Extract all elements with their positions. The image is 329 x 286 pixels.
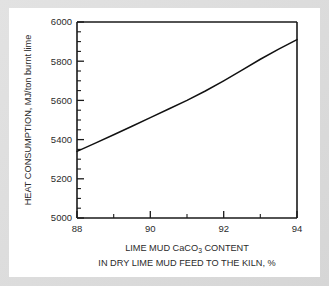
- x-axis-title-line1: LIME MUD CaCO3 CONTENT: [125, 243, 249, 254]
- plot-axes: [77, 22, 297, 218]
- x-tick-label-88: 88: [72, 223, 83, 234]
- x-tick-label-94: 94: [292, 223, 303, 234]
- y-axis-tick-labels: 5000 5200 5400 5600 5800 6000: [51, 16, 72, 223]
- figure-canvas: 5000 5200 5400 5600 5800 6000 88 90 92 9…: [9, 8, 320, 277]
- x-tick-label-90: 90: [145, 223, 156, 234]
- y-tick-label-5200: 5200: [51, 173, 72, 184]
- y-axis-title: HEAT CONSUMPTION, MJ/ton burnt lime: [23, 35, 33, 206]
- figure-outer-frame: 5000 5200 5400 5600 5800 6000 88 90 92 9…: [0, 0, 329, 286]
- x-axis-tick-labels: 88 90 92 94: [72, 223, 303, 234]
- y-tick-label-5000: 5000: [51, 212, 72, 223]
- heat-consumption-line-chart: 5000 5200 5400 5600 5800 6000 88 90 92 9…: [9, 8, 320, 277]
- x-axis-title-line1-tail: CONTENT: [202, 243, 249, 253]
- x-axis-title-line1-main: LIME MUD CaCO: [125, 243, 198, 253]
- x-tick-label-92: 92: [218, 223, 229, 234]
- y-tick-label-6000: 6000: [51, 16, 72, 27]
- y-tick-label-5800: 5800: [51, 56, 72, 67]
- y-tick-label-5600: 5600: [51, 95, 72, 106]
- x-axis-title-line2: IN DRY LIME MUD FEED TO THE KILN, %: [98, 258, 275, 268]
- y-tick-label-5400: 5400: [51, 134, 72, 145]
- data-series-line: [77, 40, 297, 152]
